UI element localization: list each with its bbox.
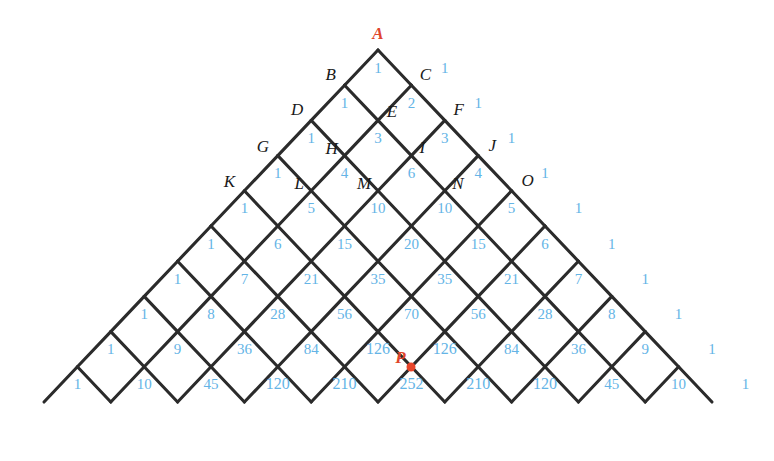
binomial-coefficient: 1: [641, 271, 649, 286]
binomial-coefficient: 2: [408, 95, 416, 110]
vertex-label-n: N: [452, 174, 463, 191]
vertex-label-o: O: [521, 171, 533, 188]
binomial-coefficient: 3: [374, 131, 382, 146]
binomial-coefficient: 35: [371, 271, 386, 286]
binomial-coefficient: 1: [474, 95, 482, 110]
binomial-coefficient: 21: [504, 271, 519, 286]
vertex-label-b: B: [325, 66, 335, 83]
vertex-label-f: F: [454, 101, 464, 118]
binomial-coefficient: 56: [337, 307, 352, 322]
binomial-coefficient: 120: [266, 376, 290, 392]
binomial-coefficient: 1: [708, 342, 716, 357]
binomial-coefficient: 1: [274, 166, 282, 181]
binomial-coefficient: 8: [608, 307, 616, 322]
binomial-coefficient: 45: [204, 377, 219, 392]
binomial-coefficient: 20: [404, 236, 419, 251]
vertex-label-m: M: [357, 174, 371, 191]
binomial-coefficient: 1: [742, 377, 750, 392]
binomial-coefficient: 10: [671, 377, 686, 392]
binomial-coefficient: 3: [441, 131, 449, 146]
binomial-coefficient: 36: [571, 342, 586, 357]
lattice-grid: [0, 0, 774, 461]
vertex-label-g: G: [257, 137, 269, 154]
binomial-coefficient: 28: [270, 307, 285, 322]
binomial-coefficient: 15: [337, 236, 352, 251]
binomial-coefficient: 1: [74, 377, 82, 392]
vertex-label-k: K: [224, 172, 235, 189]
vertex-label-l: L: [294, 174, 303, 191]
binomial-coefficient: 6: [274, 236, 282, 251]
binomial-coefficient: 10: [371, 201, 386, 216]
binomial-coefficient: 1: [307, 131, 315, 146]
vertex-label-a: A: [372, 25, 383, 42]
binomial-coefficient: 5: [307, 201, 315, 216]
binomial-coefficient: 4: [341, 166, 349, 181]
binomial-coefficient: 1: [575, 201, 583, 216]
binomial-coefficient: 210: [333, 376, 357, 392]
binomial-coefficient: 1: [675, 307, 683, 322]
binomial-coefficient: 7: [575, 271, 583, 286]
binomial-coefficient: 84: [304, 342, 319, 357]
binomial-coefficient: 15: [471, 236, 486, 251]
binomial-coefficient: 1: [441, 60, 449, 75]
vertex-label-i: I: [420, 138, 426, 155]
binomial-coefficient: 126: [433, 341, 457, 357]
binomial-coefficient: 1: [608, 236, 616, 251]
binomial-coefficient: 1: [207, 236, 215, 251]
binomial-coefficient: 210: [466, 376, 490, 392]
binomial-coefficient: 70: [404, 307, 419, 322]
binomial-coefficient: 45: [604, 377, 619, 392]
binomial-coefficient: 1: [174, 271, 182, 286]
binomial-coefficient: 6: [541, 236, 549, 251]
marked-point-dot: [407, 362, 416, 371]
binomial-coefficient: 6: [408, 166, 416, 181]
vertex-label-e: E: [387, 103, 397, 120]
binomial-coefficient: 1: [508, 131, 516, 146]
pascal-lattice-figure: 1112113311464115101051161520156117213535…: [0, 0, 774, 461]
binomial-coefficient: 1: [341, 95, 349, 110]
binomial-coefficient: 35: [437, 271, 452, 286]
binomial-coefficient: 8: [207, 307, 215, 322]
binomial-coefficient: 4: [474, 166, 482, 181]
binomial-coefficient: 56: [471, 307, 486, 322]
binomial-coefficient: 28: [538, 307, 553, 322]
binomial-coefficient: 120: [533, 376, 557, 392]
binomial-coefficient: 84: [504, 342, 519, 357]
binomial-coefficient: 126: [366, 341, 390, 357]
binomial-coefficient: 36: [237, 342, 252, 357]
binomial-coefficient: 10: [437, 201, 452, 216]
binomial-coefficient: 1: [374, 60, 382, 75]
binomial-coefficient: 7: [241, 271, 249, 286]
binomial-coefficient: 1: [241, 201, 249, 216]
vertex-label-j: J: [488, 136, 496, 153]
binomial-coefficient: 10: [137, 377, 152, 392]
binomial-coefficient: 5: [508, 201, 516, 216]
binomial-coefficient: 1: [107, 342, 115, 357]
binomial-coefficient: 9: [641, 342, 649, 357]
binomial-coefficient: 9: [174, 342, 182, 357]
binomial-coefficient: 21: [304, 271, 319, 286]
vertex-label-d: D: [291, 101, 303, 118]
vertex-label-h: H: [325, 139, 337, 156]
binomial-coefficient: 1: [541, 166, 549, 181]
binomial-coefficient: 252: [399, 376, 423, 392]
vertex-label-c: C: [420, 66, 431, 83]
binomial-coefficient: 1: [140, 307, 148, 322]
vertex-label-p: P: [395, 348, 405, 365]
